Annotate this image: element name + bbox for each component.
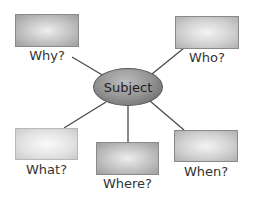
node-box-why: [15, 14, 79, 47]
node-box-what: [15, 128, 78, 160]
node-box-where: [96, 142, 159, 175]
node-box-when: [174, 130, 238, 162]
node-label-when: When?: [174, 164, 238, 179]
center-node-label: Subject: [104, 80, 153, 95]
node-box-who: [175, 16, 239, 49]
connector-when: [150, 101, 184, 130]
connector-what: [64, 102, 106, 128]
node-label-what: What?: [15, 162, 78, 177]
center-node-subject: Subject: [93, 68, 163, 106]
node-label-where: Where?: [96, 176, 159, 191]
node-label-who: Who?: [175, 50, 239, 65]
node-label-why: Why?: [15, 48, 79, 63]
